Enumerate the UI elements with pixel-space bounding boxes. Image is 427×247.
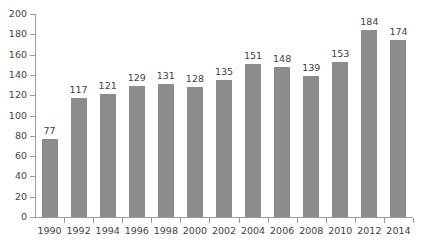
x-tick-label: 2002 bbox=[208, 226, 240, 236]
bar-value-label: 153 bbox=[324, 49, 356, 59]
x-tick-label: 1992 bbox=[63, 226, 95, 236]
bar bbox=[274, 67, 290, 217]
bar-value-label: 151 bbox=[237, 51, 269, 61]
bar-value-label: 131 bbox=[150, 71, 182, 81]
bar bbox=[216, 80, 232, 217]
bar bbox=[361, 30, 377, 217]
bar-value-label: 128 bbox=[179, 74, 211, 84]
bar bbox=[187, 87, 203, 217]
bar-value-label: 139 bbox=[295, 63, 327, 73]
bars-layer: 77117121129131128135151148139153184174 bbox=[0, 0, 427, 247]
bar-value-label: 77 bbox=[34, 126, 66, 136]
bar bbox=[71, 98, 87, 217]
bar-value-label: 174 bbox=[382, 27, 414, 37]
x-tick-label: 1996 bbox=[121, 226, 153, 236]
bar bbox=[42, 139, 58, 217]
x-tick-label: 2006 bbox=[266, 226, 298, 236]
x-tick-label: 2008 bbox=[295, 226, 327, 236]
bar bbox=[245, 64, 261, 217]
x-tick-label: 1994 bbox=[92, 226, 124, 236]
bar-value-label: 129 bbox=[121, 73, 153, 83]
x-tick-label: 2000 bbox=[179, 226, 211, 236]
x-tick-label: 1990 bbox=[34, 226, 66, 236]
bar bbox=[332, 62, 348, 217]
bar bbox=[303, 76, 319, 217]
x-tick-label: 2010 bbox=[324, 226, 356, 236]
bar bbox=[129, 86, 145, 217]
bar-value-label: 117 bbox=[63, 85, 95, 95]
bar bbox=[100, 94, 116, 217]
bar-value-label: 148 bbox=[266, 54, 298, 64]
x-tick-label: 1998 bbox=[150, 226, 182, 236]
bar-chart: 020406080100120140160180200 771171211291… bbox=[0, 0, 427, 247]
bar bbox=[158, 84, 174, 217]
x-tick-label: 2014 bbox=[382, 226, 414, 236]
bar-value-label: 184 bbox=[353, 17, 385, 27]
x-tick-label: 2012 bbox=[353, 226, 385, 236]
bar bbox=[390, 40, 406, 217]
bar-value-label: 135 bbox=[208, 67, 240, 77]
x-tick-label: 2004 bbox=[237, 226, 269, 236]
bar-value-label: 121 bbox=[92, 81, 124, 91]
